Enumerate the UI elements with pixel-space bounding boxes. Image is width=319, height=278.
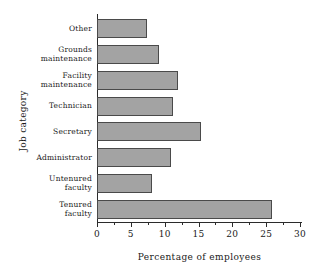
y-axis-tick-label-line: Grounds: [0, 45, 92, 54]
y-axis-tick-label-line: maintenance: [0, 54, 92, 63]
x-axis-major-tick: [165, 222, 166, 227]
x-axis-minor-tick: [283, 222, 284, 225]
bar-chart: Job category TenuredfacultyUntenuredfacu…: [0, 0, 319, 278]
y-axis-tick-label: Other: [0, 24, 92, 33]
y-axis-tick-label-line: Secretary: [0, 127, 92, 136]
x-axis-minor-tick: [215, 222, 216, 225]
plot-area: [97, 16, 300, 222]
bar: [97, 97, 173, 116]
bar: [97, 71, 178, 90]
bar: [97, 148, 171, 167]
y-axis-tick-label: Groundsmaintenance: [0, 45, 92, 63]
y-axis-tick-label: Tenuredfaculty: [0, 200, 92, 218]
x-axis-minor-tick: [114, 222, 115, 225]
y-axis-tick-label: Untenuredfaculty: [0, 174, 92, 192]
x-axis-minor-tick: [182, 222, 183, 225]
bar: [97, 19, 147, 38]
y-axis-tick-label-line: maintenance: [0, 80, 92, 89]
bar: [97, 200, 272, 219]
x-axis-minor-tick: [148, 222, 149, 225]
x-axis-major-tick: [300, 222, 301, 227]
y-axis-tick-label: Facilitymaintenance: [0, 71, 92, 89]
x-axis-major-tick: [199, 222, 200, 227]
y-axis-tick-label-line: Untenured: [0, 174, 92, 183]
y-axis-tick-label-line: Technician: [0, 101, 92, 110]
x-axis-tick-label: 5: [119, 229, 143, 239]
x-axis-title: Percentage of employees: [97, 252, 302, 262]
x-axis-tick-label: 20: [220, 229, 244, 239]
x-axis-tick-label: 25: [254, 229, 278, 239]
bar: [97, 174, 152, 193]
y-axis-tick-label: Technician: [0, 101, 92, 110]
bar: [97, 45, 159, 64]
y-axis-tick-label-line: Other: [0, 24, 92, 33]
x-axis-tick-label: 10: [153, 229, 177, 239]
bar: [97, 122, 201, 141]
x-axis-major-tick: [131, 222, 132, 227]
y-axis-tick-label-line: Facility: [0, 71, 92, 80]
x-axis-line: [97, 222, 302, 223]
y-axis-tick-label-line: Administrator: [0, 153, 92, 162]
y-axis-tick-label: Secretary: [0, 127, 92, 136]
x-axis-major-tick: [266, 222, 267, 227]
x-axis-tick-label: 15: [187, 229, 211, 239]
x-axis-major-tick: [97, 222, 98, 227]
x-axis-major-tick: [232, 222, 233, 227]
x-axis-tick-label: 30: [288, 229, 312, 239]
y-axis-tick-label-line: faculty: [0, 183, 92, 192]
x-axis-minor-tick: [249, 222, 250, 225]
y-axis-tick-label: Administrator: [0, 153, 92, 162]
x-axis-tick-label: 0: [85, 229, 109, 239]
y-axis-tick-label-line: faculty: [0, 209, 92, 218]
y-axis-tick-label-line: Tenured: [0, 200, 92, 209]
